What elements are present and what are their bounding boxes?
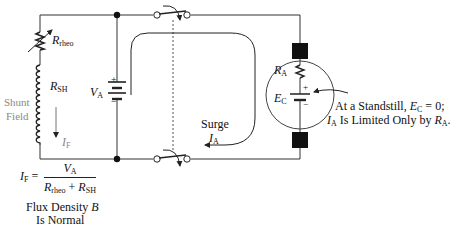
armature-resistance-label: RA xyxy=(274,64,287,78)
wires xyxy=(40,15,300,159)
shunt-field-label-1: Shunt xyxy=(4,97,30,108)
junction-node-top xyxy=(114,12,120,18)
shunt-resistance-label: RSH xyxy=(50,80,68,94)
battery-minus-sign: − xyxy=(111,97,117,107)
bottom-switch-icon xyxy=(154,150,190,166)
flux-normal-label-cut: Is Normal xyxy=(36,214,84,226)
junction-node-bottom xyxy=(114,156,120,162)
flux-density-label: Flux Density B xyxy=(26,201,99,213)
shunt-field-coil-icon xyxy=(36,65,40,145)
rheostat-arrow-icon xyxy=(28,30,52,52)
formula-numerator: VA xyxy=(44,162,96,176)
surge-current-label: IA xyxy=(209,132,219,146)
ec-plus-sign: + xyxy=(303,83,308,92)
battery-plus-sign: + xyxy=(111,75,117,85)
formula-denominator: Rrheo + RSH xyxy=(44,181,96,195)
rheostat-label: Rrheo xyxy=(52,34,74,48)
standstill-annotation-line-1: At a Standstill, EC = 0; xyxy=(335,100,444,114)
brush-bottom xyxy=(292,132,308,148)
surge-label: Surge xyxy=(201,118,229,130)
armature-voltage-label: VA xyxy=(90,86,103,100)
shunt-field-label-2: Field xyxy=(6,111,29,122)
fraction-bar xyxy=(44,177,96,178)
counter-emf-label: EC xyxy=(274,92,287,106)
brush-top xyxy=(292,43,308,59)
ec-minus-sign: − xyxy=(303,100,308,109)
field-current-label: IF xyxy=(62,136,70,150)
surge-current-path-icon xyxy=(131,33,255,145)
top-switch-icon xyxy=(154,6,190,20)
field-current-formula-lhs: IF = xyxy=(20,170,38,184)
standstill-annotation-line-2: IA Is Limited Only by RA. xyxy=(327,114,451,128)
